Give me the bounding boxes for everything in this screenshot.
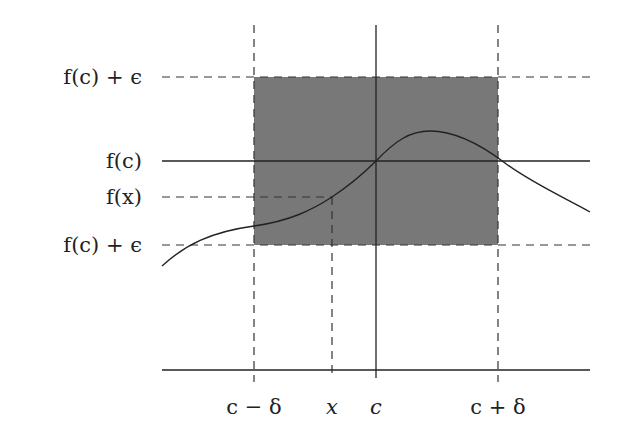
label-upper-epsilon: f(c) + ϵ	[63, 65, 142, 89]
label-lower-epsilon: f(c) + ϵ	[63, 233, 142, 257]
label-c-plus-delta: c + δ	[470, 395, 525, 419]
label-c-minus-delta: c − δ	[226, 395, 281, 419]
epsilon-delta-diagram: f(c) + ϵ f(c) f(x) f(c) + ϵ c − δ x c c …	[0, 0, 623, 441]
label-x: x	[326, 395, 338, 419]
label-fc: f(c)	[106, 149, 142, 173]
label-fx: f(x)	[106, 185, 142, 209]
label-c: c	[370, 395, 382, 419]
